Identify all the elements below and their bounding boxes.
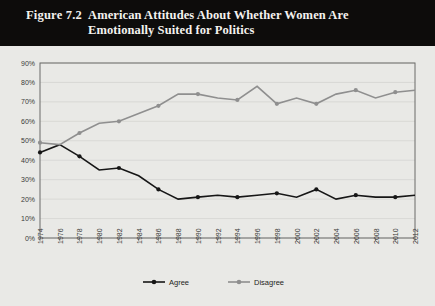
x-axis-tick-label: 1980 — [96, 228, 103, 244]
x-axis-tick-label: 2002 — [313, 228, 320, 244]
x-axis-tick-label: 2006 — [353, 228, 360, 244]
data-point-agree — [393, 195, 397, 199]
x-axis-tick-label: 2004 — [333, 228, 340, 244]
chart-legend: AgreeDisagree — [143, 278, 284, 287]
gridlines-group — [40, 63, 415, 238]
x-axis-tick-label: 1974 — [37, 228, 44, 244]
legend-swatch-marker — [152, 280, 157, 285]
legend-label: Disagree — [254, 278, 284, 287]
data-series-group — [38, 86, 415, 199]
data-point-disagree — [354, 88, 358, 92]
data-point-agree — [77, 154, 81, 158]
data-point-disagree — [275, 102, 279, 106]
y-axis-tick-label: 40% — [21, 157, 35, 164]
data-point-disagree — [156, 104, 160, 108]
data-point-agree — [117, 166, 121, 170]
data-point-agree — [235, 195, 239, 199]
legend-label: Agree — [169, 278, 189, 287]
x-axis-tick-label: 1984 — [136, 228, 143, 244]
x-axis-tick-label: 1992 — [215, 228, 222, 244]
data-point-disagree — [38, 141, 42, 145]
data-point-agree — [38, 150, 42, 154]
y-axis-tick-labels: 0%10%20%30%40%50%60%70%80%90% — [21, 60, 35, 242]
data-point-agree — [314, 187, 318, 191]
data-point-disagree — [196, 92, 200, 96]
x-axis-tick-label: 2000 — [294, 228, 301, 244]
data-point-agree — [156, 187, 160, 191]
figure-title: American Attitudes About Whether Women A… — [88, 8, 418, 38]
y-axis-tick-label: 60% — [21, 118, 35, 125]
data-point-disagree — [393, 90, 397, 94]
x-axis-tick-label: 2010 — [392, 228, 399, 244]
y-axis-tick-label: 50% — [21, 137, 35, 144]
figure-container: Figure 7.2 American Attitudes About Whet… — [0, 0, 435, 306]
series-line-disagree — [40, 86, 415, 144]
x-axis-tick-label: 1990 — [195, 228, 202, 244]
x-axis-tick-label: 2012 — [412, 228, 419, 244]
line-chart: 0%10%20%30%40%50%60%70%80%90% 1974197619… — [0, 46, 435, 306]
plot-border — [40, 63, 415, 238]
x-axis-tick-label: 1976 — [57, 228, 64, 244]
x-axis-tick-label: 1982 — [116, 228, 123, 244]
data-point-disagree — [117, 119, 121, 123]
chart-area: 0%10%20%30%40%50%60%70%80%90% 1974197619… — [0, 46, 435, 306]
y-axis-tick-label: 80% — [21, 79, 35, 86]
data-point-disagree — [314, 102, 318, 106]
legend-swatch-marker — [237, 280, 242, 285]
y-axis-tick-label: 0% — [25, 235, 35, 242]
y-axis-tick-label: 30% — [21, 176, 35, 183]
y-axis-tick-label: 90% — [21, 60, 35, 67]
x-axis-tick-label: 1986 — [155, 228, 162, 244]
x-axis-tick-labels: 1974197619781980198219841986198819901992… — [37, 228, 419, 244]
data-point-agree — [196, 195, 200, 199]
x-axis-tick-label: 2008 — [373, 228, 380, 244]
x-axis-tick-label: 1996 — [254, 228, 261, 244]
y-axis-tick-label: 10% — [21, 215, 35, 222]
x-axis-tick-label: 1978 — [76, 228, 83, 244]
x-axis-tick-label: 1998 — [274, 228, 281, 244]
y-axis-tick-label: 20% — [21, 196, 35, 203]
series-line-agree — [40, 145, 415, 199]
figure-title-banner: Figure 7.2 American Attitudes About Whet… — [0, 0, 435, 46]
data-point-agree — [275, 191, 279, 195]
x-axis-tick-label: 1994 — [234, 228, 241, 244]
data-point-disagree — [77, 131, 81, 135]
figure-number: Figure 7.2 — [26, 8, 82, 23]
data-point-agree — [354, 193, 358, 197]
y-axis-tick-label: 70% — [21, 98, 35, 105]
x-axis-tick-label: 1988 — [175, 228, 182, 244]
data-point-disagree — [235, 98, 239, 102]
